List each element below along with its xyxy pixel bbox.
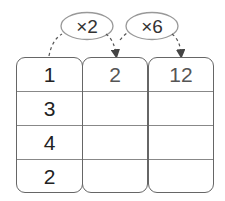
cell-c3-r4[interactable]	[149, 160, 213, 194]
column-1: 1 3 4 2	[16, 57, 83, 193]
cell-c1-r2: 3	[17, 92, 82, 126]
column-3: 12	[148, 57, 214, 193]
cell-c1-r1: 1	[17, 58, 82, 92]
cell-c3-r3[interactable]	[149, 126, 213, 160]
cell-c3-r1: 12	[149, 58, 213, 92]
operator-label-1: ×2	[61, 13, 113, 40]
cell-c2-r2[interactable]	[83, 92, 147, 126]
cell-c1-r4: 2	[17, 160, 82, 194]
operator-label-2: ×6	[126, 13, 178, 40]
cell-c2-r1: 2	[83, 58, 147, 92]
cell-c2-r3[interactable]	[83, 126, 147, 160]
cell-c3-r2[interactable]	[149, 92, 213, 126]
cell-c2-r4[interactable]	[83, 160, 147, 194]
column-2: 2	[82, 57, 148, 193]
cell-c1-r3: 4	[17, 126, 82, 160]
